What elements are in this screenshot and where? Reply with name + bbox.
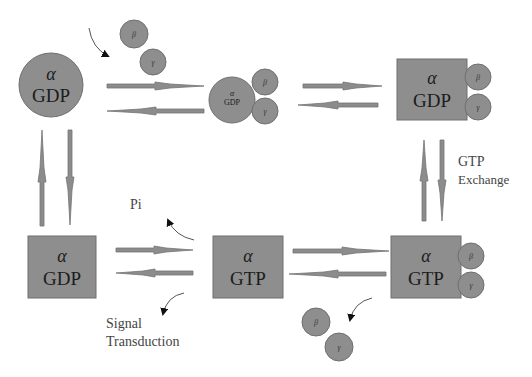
state-label: GDP xyxy=(413,90,451,111)
beta-label: β xyxy=(131,30,136,39)
curved-arrow-pi-icon xyxy=(168,220,194,240)
node-alpha-gdp-square: α GDP xyxy=(28,236,96,298)
equilibrium-arrows-n3-n4 xyxy=(420,140,446,221)
beta-label: β xyxy=(468,252,473,261)
gtp-exchange-label-2: Exchange xyxy=(458,172,509,187)
beta-label: β xyxy=(313,318,318,327)
beta-label: β xyxy=(262,78,267,87)
alpha-label: α xyxy=(243,246,253,266)
equilibrium-arrows-n1-n6 xyxy=(38,130,74,226)
state-label: GTP xyxy=(408,268,444,289)
free-beta-gamma-bottom: β γ xyxy=(302,308,353,361)
curved-arrow-signal-icon xyxy=(163,293,184,314)
pi-label: Pi xyxy=(130,197,142,212)
equilibrium-arrows-n6-n5 xyxy=(116,246,193,277)
alpha-label: α xyxy=(421,246,431,266)
free-beta-gamma-top: β γ xyxy=(120,20,166,75)
equilibrium-arrows-n2-n3 xyxy=(298,82,382,109)
state-label: GDP xyxy=(32,85,70,106)
node-alpha-gdp-beta-gamma-square: α GDP β γ xyxy=(397,59,491,120)
state-label: GDP xyxy=(43,268,81,289)
node-alpha-gtp-square: α GTP xyxy=(213,236,283,298)
node-alpha-gtp-beta-gamma-square: α GTP β γ xyxy=(391,236,484,298)
alpha-label: α xyxy=(427,68,437,88)
beta-label: β xyxy=(475,73,480,82)
curved-arrow-release-icon xyxy=(350,298,372,320)
gtp-exchange-label: GTP xyxy=(458,154,485,169)
alpha-label: α xyxy=(46,64,56,84)
signal-label: Signal xyxy=(106,316,142,331)
state-label: GTP xyxy=(230,268,266,289)
curved-arrow-binding-icon xyxy=(89,28,108,56)
node-alpha-gdp-beta-gamma-circle: α GDP β γ xyxy=(209,69,278,124)
g-protein-cycle-diagram: α GDP β γ α GDP β γ α GDP β γ xyxy=(0,0,532,377)
equilibrium-arrows-n1-n2 xyxy=(107,82,204,115)
node-alpha-gdp-circle: α GDP xyxy=(19,53,83,117)
equilibrium-arrows-n5-n4 xyxy=(289,247,389,278)
alpha-label: α xyxy=(57,246,67,266)
state-label: GDP xyxy=(224,98,241,107)
transduction-label: Transduction xyxy=(106,334,179,349)
